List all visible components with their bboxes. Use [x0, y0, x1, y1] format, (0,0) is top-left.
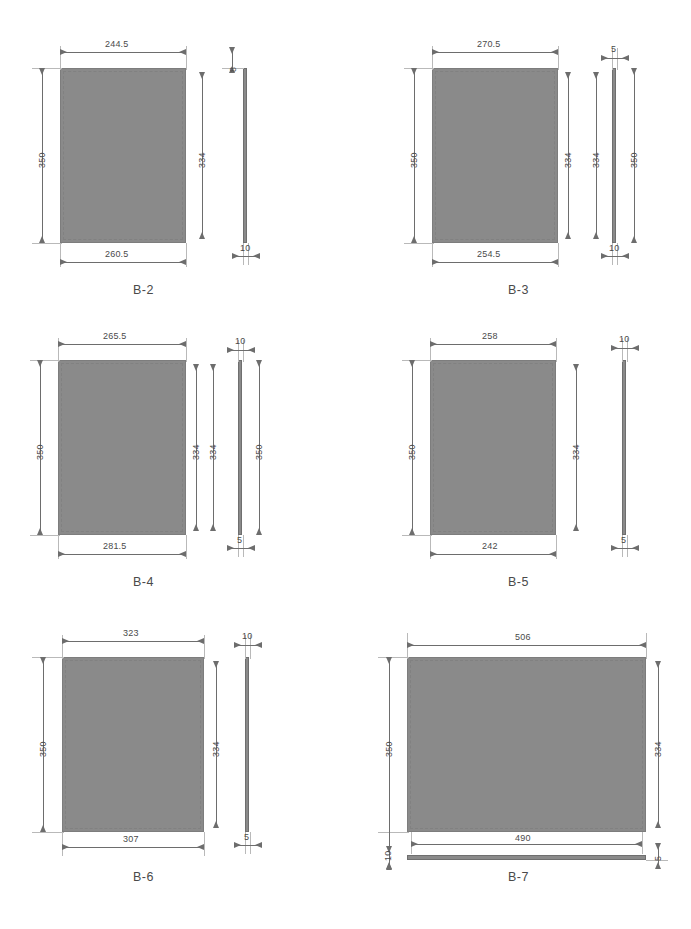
b6-left-height-text: 350	[39, 741, 48, 757]
b3-side-left-arrow-bottom	[593, 232, 599, 239]
b4-side-right-height-text: 350	[255, 444, 264, 460]
b7-left-ext-top	[378, 657, 409, 658]
b5-left-height-text: 350	[408, 444, 417, 460]
b3-front-face	[432, 68, 558, 243]
b6-top-arrow-right	[197, 638, 204, 644]
b4-bottom-dimline	[58, 554, 186, 555]
b5-left-ext-top	[402, 360, 432, 361]
b5-side-top-thickness-text: 10	[619, 335, 629, 344]
b2-part-label: B-2	[133, 284, 154, 297]
b5-top-ext-right	[556, 338, 557, 362]
b6-bottom-dimline	[62, 847, 204, 848]
b5-bottom-dimline	[430, 554, 556, 555]
b2-left-ext-top	[32, 68, 62, 69]
b5-top-arrow-right	[549, 341, 556, 347]
b5-right-height-text: 334	[572, 444, 581, 460]
b6-right-arrow-top	[213, 661, 219, 668]
b6-front-face	[62, 657, 204, 832]
b2-top-width-text: 244.5	[105, 40, 129, 49]
b2-right-height-text: 334	[198, 152, 207, 168]
b4-left-arrow-top	[37, 360, 43, 367]
b2-front-inner-outline	[63, 71, 183, 240]
b7-part-label: B-7	[508, 871, 529, 884]
b3-top-width-text: 270.5	[477, 40, 501, 49]
b3-top-dimline	[432, 52, 558, 53]
b4-right-height-text: 334	[192, 444, 201, 460]
b4-right-arrow-bottom	[193, 524, 199, 531]
b7-side-right-arrow-top	[655, 843, 661, 850]
b3-bottom-dimline	[432, 262, 558, 263]
b7-top-width-text: 506	[515, 633, 531, 642]
b4-side-left-arrow-top	[210, 364, 216, 371]
b2-left-ext-bottom	[32, 243, 62, 244]
b5-bottom-width-text: 242	[482, 542, 498, 551]
b2-side-bottom-thickness-text: 10	[240, 244, 250, 253]
b3-left-arrow-bottom	[411, 236, 417, 243]
b6-side-edge	[245, 657, 249, 832]
b3-left-ext-bottom	[404, 243, 434, 244]
b7-side-right-arrow-bottom	[655, 862, 661, 869]
b2-bottom-dimline	[60, 262, 186, 263]
b7-left-dimline	[389, 657, 390, 869]
b6-side-bottom-ext-right	[250, 832, 251, 854]
b3-side-bottom-arrow-left	[601, 253, 608, 259]
b6-left-arrow-bottom	[40, 825, 46, 832]
drawing-sheet: 244.5 260.5 350 334 8 10	[0, 0, 691, 929]
b5-left-ext-bottom	[402, 535, 432, 536]
b2-bottom-arrow-right	[179, 259, 186, 265]
b2-top-arrow-right	[179, 49, 186, 55]
b2-left-arrow-bottom	[39, 236, 45, 243]
b7-top-dimline	[407, 645, 646, 646]
b3-side-right-height-text: 350	[630, 152, 639, 168]
b5-front-inner-outline	[433, 363, 553, 532]
b2-right-arrow-bottom	[199, 232, 205, 239]
b4-front-inner-outline	[61, 363, 183, 532]
b4-side-bottom-thickness-text: 5	[237, 536, 242, 545]
b5-side-top-arrow-right	[632, 345, 639, 351]
b5-part-label: B-5	[508, 576, 529, 589]
b3-right-height-text: 334	[564, 152, 573, 168]
b4-top-ext-right	[186, 338, 187, 362]
b2-left-height-text: 350	[38, 152, 47, 168]
b4-right-arrow-top	[193, 364, 199, 371]
b2-side-top-arrow-a	[229, 47, 235, 54]
b4-part-label: B-4	[133, 576, 154, 589]
b4-top-dimline	[58, 344, 186, 345]
b4-left-ext-bottom	[30, 535, 60, 536]
b3-side-right-arrow-bottom	[631, 236, 637, 243]
b3-bottom-arrow-right	[551, 259, 558, 265]
b5-side-top-arrow-left	[611, 345, 618, 351]
b5-top-width-text: 258	[482, 332, 498, 341]
b2-right-arrow-top	[199, 72, 205, 79]
b4-bottom-ext-right	[186, 535, 187, 559]
b4-front-face	[58, 360, 186, 535]
b3-bottom-ext-right	[558, 243, 559, 267]
b4-left-height-text: 350	[36, 444, 45, 460]
b2-bottom-arrow-left	[60, 259, 67, 265]
b5-bottom-arrow-right	[549, 551, 556, 557]
b6-side-top-arrow-right	[255, 642, 262, 648]
b3-front-inner-outline	[435, 71, 555, 240]
b2-bottom-ext-right	[186, 243, 187, 267]
b3-side-top-arrow-right	[622, 55, 629, 61]
b5-right-arrow-top	[573, 364, 579, 371]
b3-side-edge	[612, 68, 616, 243]
b3-bottom-width-text: 254.5	[477, 250, 501, 259]
b3-side-bottom-thickness-text: 10	[609, 244, 619, 253]
b2-left-arrow-top	[39, 68, 45, 75]
b5-bottom-arrow-left	[430, 551, 437, 557]
b6-side-top-thickness-text: 10	[242, 632, 252, 641]
b4-left-ext-top	[30, 360, 60, 361]
b4-top-arrow-left	[58, 341, 65, 347]
b4-side-left-arrow-bottom	[210, 524, 216, 531]
b7-front-inner-outline	[410, 660, 643, 829]
b7-front-face	[407, 657, 646, 832]
b3-left-arrow-top	[411, 68, 417, 75]
b5-right-arrow-bottom	[573, 524, 579, 531]
b4-side-bottom-arrow-left	[227, 545, 234, 551]
b6-bottom-arrow-left	[62, 844, 69, 850]
b3-bottom-arrow-left	[432, 259, 439, 265]
b6-right-height-text: 334	[212, 741, 221, 757]
b6-left-ext-top	[32, 657, 64, 658]
b7-right-arrow-top	[655, 661, 661, 668]
